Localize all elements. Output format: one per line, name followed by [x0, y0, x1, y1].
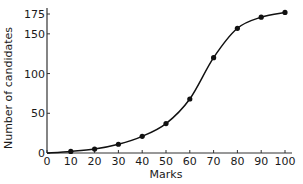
- data-point-marker: [68, 149, 73, 154]
- y-axis-ticks: 050100150175: [24, 8, 50, 160]
- x-tick-label: 80: [230, 155, 244, 168]
- x-tick-label: 30: [111, 155, 125, 168]
- data-point-marker: [140, 134, 145, 139]
- data-point-marker: [92, 146, 97, 151]
- data-point-marker: [187, 96, 192, 101]
- y-tick-label: 100: [24, 68, 45, 81]
- data-point-marker: [235, 26, 240, 31]
- x-tick-label: 20: [88, 155, 102, 168]
- x-tick-label: 60: [183, 155, 197, 168]
- y-tick-label: 175: [24, 8, 45, 21]
- x-tick-label: 90: [254, 155, 268, 168]
- data-markers: [68, 10, 287, 154]
- data-point-marker: [259, 15, 264, 20]
- y-tick-label: 50: [31, 107, 45, 120]
- x-axis-label: Marks: [150, 168, 183, 181]
- y-axis-label: Number of candidates: [2, 27, 15, 149]
- cumulative-frequency-chart: 050100150175 0102030405060708090100 Mark…: [0, 0, 303, 184]
- x-tick-label: 50: [159, 155, 173, 168]
- x-tick-label: 0: [44, 155, 51, 168]
- x-tick-label: 70: [207, 155, 221, 168]
- axes: [47, 8, 292, 153]
- y-tick-label: 150: [24, 28, 45, 41]
- data-point-marker: [163, 121, 168, 126]
- data-point-marker: [211, 55, 216, 60]
- x-tick-label: 10: [64, 155, 78, 168]
- data-line: [47, 12, 285, 153]
- x-tick-label: 40: [135, 155, 149, 168]
- data-point-marker: [116, 142, 121, 147]
- data-point-marker: [282, 10, 287, 15]
- x-tick-label: 100: [275, 155, 296, 168]
